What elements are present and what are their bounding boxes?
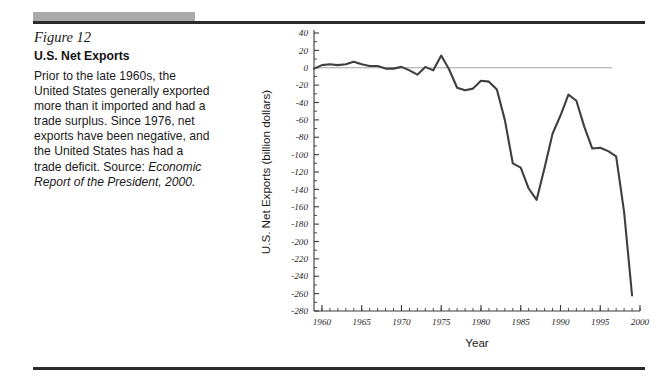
y-tick-label: -200	[291, 237, 308, 247]
y-tick-label: -220	[291, 254, 308, 264]
figure-number: Figure 12	[34, 29, 210, 46]
y-tick-label: -120	[291, 167, 308, 177]
figure-description: Prior to the late 1960s, the United Stat…	[34, 69, 210, 190]
net-exports-line-chart: 40200-20-40-60-80-100-120-140-160-180-20…	[250, 24, 650, 364]
x-tick-label: 1995	[591, 317, 610, 327]
net-exports-series-line	[314, 56, 632, 296]
x-tick-label: 1985	[512, 317, 531, 327]
y-tick-label: -160	[291, 202, 308, 212]
x-tick-label: 2000	[631, 317, 650, 327]
y-axis-title: U.S. Net Exports (billion dollars)	[259, 90, 272, 254]
y-tick-label: -260	[291, 289, 308, 299]
y-tick-label: -180	[291, 219, 308, 229]
x-tick-label: 1975	[432, 317, 451, 327]
y-axis-ticks	[314, 33, 319, 311]
y-axis: 40200-20-40-60-80-100-120-140-160-180-20…	[291, 28, 319, 316]
figure-description-text: Prior to the late 1960s, the United Stat…	[34, 69, 210, 174]
y-axis-tick-labels: 40200-20-40-60-80-100-120-140-160-180-20…	[291, 28, 308, 316]
figure-caption-block: Figure 12 U.S. Net Exports Prior to the …	[34, 29, 210, 190]
bottom-divider-rule	[33, 367, 645, 370]
x-tick-label: 1960	[313, 317, 332, 327]
y-tick-label: -40	[296, 98, 309, 108]
y-tick-label: -20	[296, 80, 309, 90]
y-tick-label: -100	[291, 150, 308, 160]
x-axis: 196019651970197519801985199019952000	[313, 305, 650, 327]
y-tick-label: -240	[291, 271, 308, 281]
y-tick-label: 20	[299, 46, 309, 56]
x-tick-label: 1970	[392, 317, 411, 327]
y-tick-label: -280	[291, 306, 308, 316]
figure-title: U.S. Net Exports	[34, 49, 210, 64]
chart-svg: 40200-20-40-60-80-100-120-140-160-180-20…	[250, 24, 650, 364]
x-axis-tick-labels: 196019651970197519801985199019952000	[313, 317, 650, 327]
y-tick-label: -140	[291, 185, 308, 195]
y-tick-label: -60	[296, 115, 309, 125]
x-tick-label: 1990	[551, 317, 570, 327]
y-tick-label: -80	[296, 132, 309, 142]
x-axis-title: Year	[465, 336, 489, 349]
y-tick-label: 0	[303, 63, 308, 73]
top-gray-bar	[33, 12, 195, 21]
x-tick-label: 1965	[353, 317, 372, 327]
x-tick-label: 1980	[472, 317, 491, 327]
y-tick-label: 40	[299, 28, 309, 38]
